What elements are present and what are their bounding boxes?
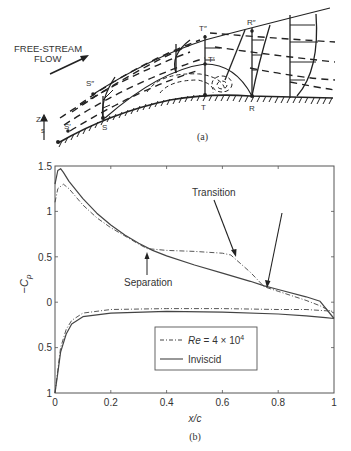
y-axis-label: −Cp bbox=[18, 274, 33, 293]
transition-label: Transition bbox=[192, 187, 236, 198]
transition-annotation: Transition bbox=[192, 187, 282, 288]
y-tick-label: 0 bbox=[46, 297, 52, 308]
y-tick-label: 0.5 bbox=[38, 342, 52, 353]
x-tick-label: 0.6 bbox=[215, 397, 229, 408]
y-tick-label: 1.5 bbox=[38, 161, 52, 172]
legend-label-inviscid: Inviscid bbox=[188, 354, 221, 365]
legend-label-re: Re = 4 × 104 bbox=[188, 334, 244, 346]
x-tick-label: 0.8 bbox=[271, 397, 285, 408]
x-axis-label: x/c bbox=[188, 413, 202, 424]
y-tick-label: 1 bbox=[46, 206, 52, 217]
x-tick-label: 0 bbox=[52, 397, 58, 408]
x-tick-labels: 0 0.2 0.4 0.6 0.8 1 bbox=[52, 397, 337, 408]
x-tick-label: 1 bbox=[331, 397, 337, 408]
x-tick-label: 0.4 bbox=[160, 397, 174, 408]
separation-annotation: Separation bbox=[124, 252, 172, 288]
svg-text:−Cp: −Cp bbox=[18, 274, 33, 293]
legend: Re = 4 × 104 Inviscid bbox=[155, 327, 257, 370]
separation-label: Separation bbox=[124, 277, 172, 288]
caption-b: (b) bbox=[189, 431, 201, 443]
x-tick-label: 0.2 bbox=[104, 397, 118, 408]
cp-chart: 1.5 1 0.5 0 0.5 1 0 0.2 0.4 0.6 0.8 1 x/… bbox=[0, 0, 351, 451]
y-tick-label: 0.5 bbox=[38, 252, 52, 263]
y-tick-labels: 1.5 1 0.5 0 0.5 1 bbox=[38, 161, 52, 399]
